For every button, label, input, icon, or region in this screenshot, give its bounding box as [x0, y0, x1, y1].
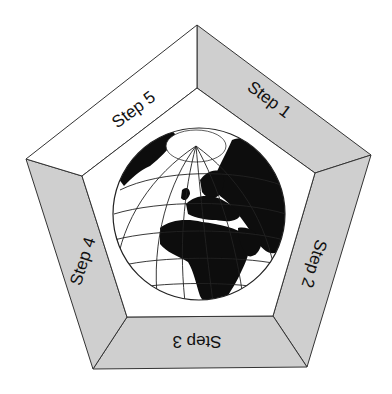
pentagon-cycle-diagram: Step 1 Step 2 Step 3 Step 4 Step 5 — [0, 0, 392, 394]
step-3-label: Step 3 — [172, 332, 221, 351]
